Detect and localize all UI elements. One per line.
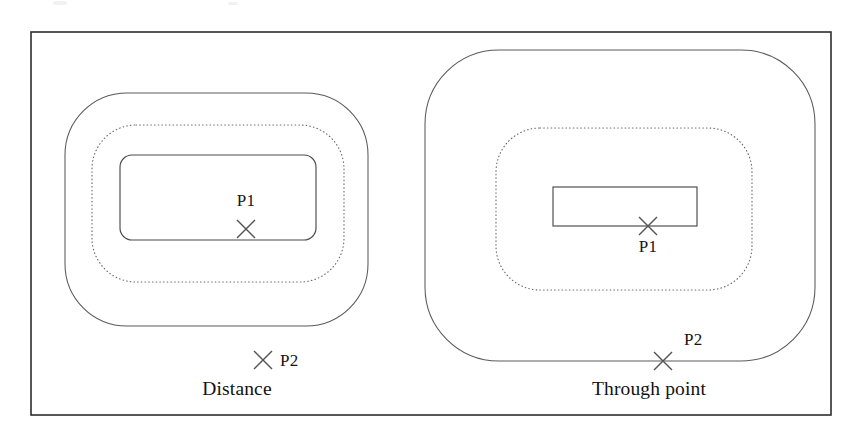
figure-root: P1P2Distance P1P2Through point <box>0 0 863 445</box>
offset-contour-diagram: P1P2Distance P1P2Through point <box>0 0 863 445</box>
point-label-p2-through-point: P2 <box>684 330 702 349</box>
point-label-p1-distance: P1 <box>237 191 255 210</box>
caption-through-point: Through point <box>592 378 706 399</box>
point-label-p1-through-point: P1 <box>639 237 657 256</box>
diagram-frame <box>31 32 831 415</box>
point-label-p2-distance: P2 <box>280 351 298 370</box>
caption-distance: Distance <box>202 378 271 399</box>
